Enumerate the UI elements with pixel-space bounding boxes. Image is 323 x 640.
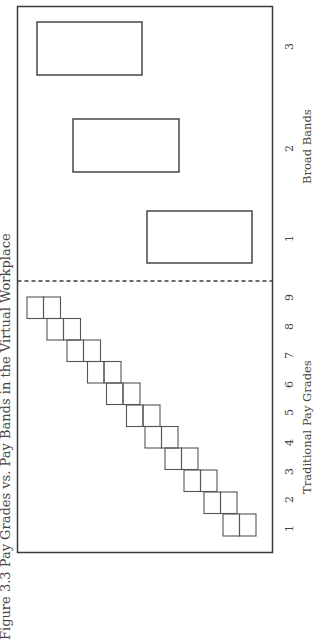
grade-2b-high: [201, 470, 218, 492]
grade-5-low: [107, 383, 124, 405]
grade-5-high: [123, 383, 140, 405]
grade-3-low: [145, 427, 162, 449]
bands-axis-label: Broad Bands: [300, 109, 314, 184]
band-2: [73, 119, 179, 172]
grade-tick-9: 9: [283, 294, 296, 301]
band-3: [37, 22, 142, 75]
pay-grades: [27, 297, 256, 536]
grade-tick-6: 6: [283, 381, 296, 388]
grade-tick-2: 2: [283, 496, 296, 503]
band-tick-3: 3: [283, 43, 296, 50]
grade-9-high: [44, 297, 61, 319]
grade-2b-low: [184, 470, 201, 492]
chart-title: Figure 3.3 Pay Grades vs. Pay Bands in t…: [0, 233, 13, 640]
grade-1-low: [223, 514, 240, 536]
grade-6-high: [104, 362, 121, 384]
band-tick-2: 2: [283, 145, 296, 152]
grade-1b-high: [221, 492, 238, 514]
grade-6-low: [88, 362, 105, 384]
grade-4-high: [143, 405, 160, 427]
grade-3-high: [162, 427, 179, 449]
grade-1b-low: [204, 492, 221, 514]
grade-8-low: [47, 319, 64, 341]
band-1: [147, 211, 252, 263]
grades-axis-label: Traditional Pay Grades: [300, 360, 314, 494]
chart-frame: [18, 7, 273, 553]
grade-tick-7: 7: [283, 352, 296, 359]
broad-bands: [37, 22, 252, 263]
grade-1-high: [240, 514, 257, 536]
grade-tick-4: 4: [283, 439, 296, 446]
grade-tick-5: 5: [283, 409, 296, 416]
grade-9-low: [27, 297, 44, 319]
grade-tick-8: 8: [283, 323, 296, 330]
grade-tick-3: 3: [283, 468, 296, 475]
grade-7-low: [67, 340, 84, 362]
grade-tick-1: 1: [283, 525, 296, 532]
band-tick-1: 1: [283, 235, 296, 242]
grade-2-high: [182, 448, 199, 470]
grade-8-high: [64, 319, 81, 341]
grade-7-high: [84, 340, 101, 362]
grade-4-low: [127, 405, 144, 427]
grade-2-low: [165, 448, 182, 470]
